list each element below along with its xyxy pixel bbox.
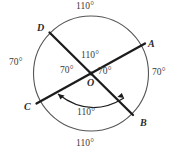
- point-label-c: C: [24, 102, 31, 112]
- center-angle-label-left: 70°: [60, 66, 74, 76]
- point-label-o: O: [87, 78, 94, 88]
- point-label-d: D: [37, 23, 44, 33]
- arc-arrow-angle-label: 110°: [77, 108, 95, 118]
- point-label-a: A: [148, 39, 155, 49]
- arc-label-top: 110°: [76, 2, 94, 12]
- arc-label-bottom: 110°: [76, 139, 94, 149]
- arc-arrowhead-right-icon: [117, 93, 124, 98]
- point-label-b: B: [140, 118, 147, 128]
- arc-label-left: 70°: [9, 58, 23, 68]
- arc-label-right: 70°: [152, 68, 166, 78]
- center-angle-label-right: 70°: [98, 67, 112, 77]
- center-angle-label-top: 110°: [81, 51, 99, 61]
- arc-arrowhead-left-icon: [58, 94, 65, 100]
- center-point-dot: [89, 71, 93, 75]
